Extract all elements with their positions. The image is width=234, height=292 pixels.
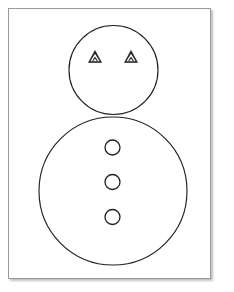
head-circle bbox=[69, 26, 158, 115]
button-top bbox=[105, 140, 120, 155]
body-circle bbox=[39, 117, 187, 265]
eye-left-triangle-icon bbox=[89, 51, 102, 63]
eye-right-triangle-icon bbox=[125, 51, 138, 63]
snowman-figure-drawing bbox=[9, 9, 212, 280]
button-middle bbox=[105, 175, 120, 190]
button-bottom bbox=[105, 210, 120, 225]
figure-card bbox=[8, 8, 211, 279]
canvas-root bbox=[0, 0, 234, 292]
